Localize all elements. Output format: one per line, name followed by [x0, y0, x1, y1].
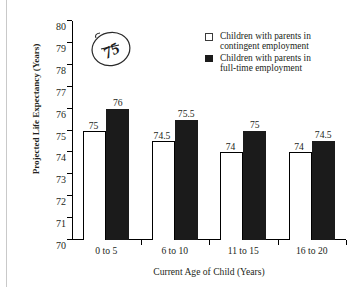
legend-label-line2: contingent employment	[220, 41, 353, 51]
y-axis-tick	[67, 217, 72, 218]
x-axis-tick	[141, 240, 142, 245]
bar-fulltime: 75	[243, 131, 266, 241]
bar-contingent: 75	[83, 131, 106, 241]
y-axis-tick	[67, 108, 72, 109]
bar-value-label: 76	[113, 97, 123, 108]
bar-fulltime: 75.5	[175, 120, 198, 240]
bar-fulltime: 76	[106, 109, 129, 240]
bar-value-label: 75	[250, 119, 260, 130]
bar-contingent: 74	[220, 152, 243, 240]
x-axis-tick	[209, 240, 210, 245]
bar-contingent: 74.5	[152, 141, 175, 240]
page-edge-rule	[6, 0, 7, 287]
legend-swatch-open-square-icon	[205, 33, 213, 41]
y-axis-tick	[67, 64, 72, 65]
x-axis-title: Current Age of Child (Years)	[72, 266, 346, 277]
y-axis-title: Projected Life Expectancy (Years)	[31, 19, 41, 199]
y-axis-tick	[67, 130, 72, 131]
legend-label-line1: Children with parents in	[220, 31, 353, 41]
x-axis-category-label: 11 to 15	[228, 245, 259, 256]
bar-value-label: 75	[89, 120, 99, 131]
bar-value-label: 74.5	[154, 130, 171, 141]
legend-label-line1: Children with parents in	[220, 53, 353, 63]
y-axis-line	[72, 21, 73, 240]
x-axis-category-label: 16 to 20	[296, 245, 327, 256]
bar-value-label: 74.5	[315, 129, 332, 140]
handwritten-annotation: 75	[88, 29, 134, 69]
x-axis-category-label: 6 to 10	[161, 245, 188, 256]
y-axis-tick	[67, 151, 72, 152]
legend-item-contingent: Children with parents in contingent empl…	[205, 31, 353, 52]
handwritten-circled-75-icon: 75	[88, 29, 134, 69]
legend-swatch-filled-square-icon	[205, 55, 213, 63]
chart-legend: Children with parents in contingent empl…	[205, 31, 353, 75]
bar-fulltime: 74.5	[312, 141, 335, 240]
legend-label-line2: full-time employment	[220, 63, 353, 73]
y-axis-tick	[67, 86, 72, 87]
bar-value-label: 74	[226, 141, 236, 152]
bar-value-label: 74	[294, 141, 304, 152]
y-axis-tick	[67, 20, 72, 21]
bar-value-label: 75.5	[178, 108, 195, 119]
y-axis-tick	[67, 239, 72, 240]
y-axis-tick	[67, 173, 72, 174]
legend-item-fulltime: Children with parents in full-time emplo…	[205, 53, 353, 74]
x-axis-tick	[346, 240, 347, 245]
x-axis-category-label: 0 to 5	[95, 245, 117, 256]
y-axis-tick	[67, 195, 72, 196]
svg-text:75: 75	[100, 39, 122, 62]
bar-contingent: 74	[289, 152, 312, 240]
x-axis-tick	[278, 240, 279, 245]
y-axis-tick	[67, 42, 72, 43]
